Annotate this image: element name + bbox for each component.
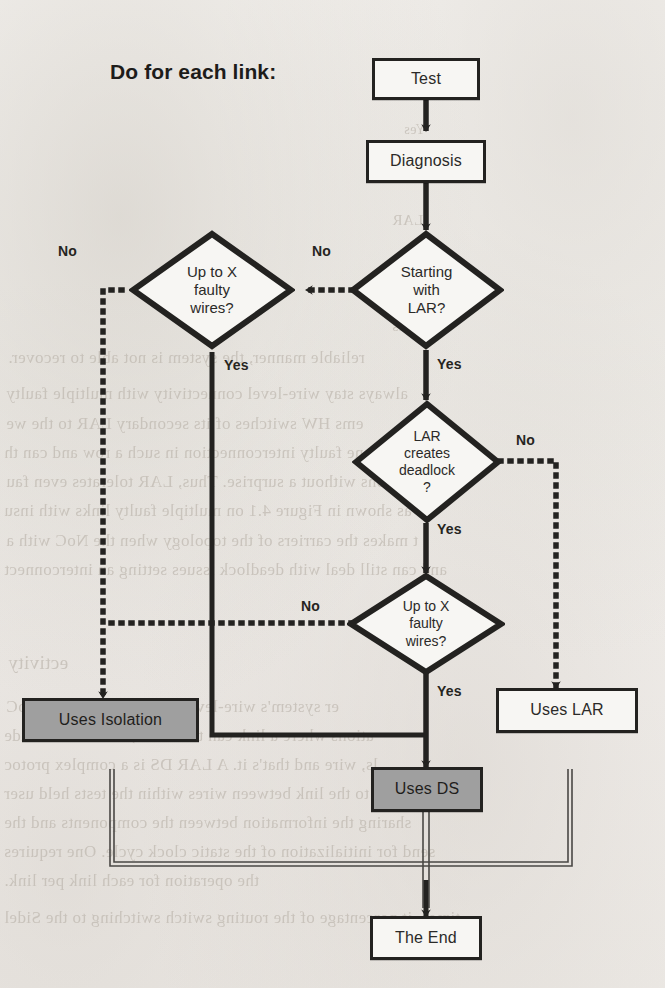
bleed-through-line: send for initialization of the static cl… bbox=[4, 842, 435, 862]
bleed-through-line: reliable manner, the system is not able … bbox=[8, 348, 365, 368]
decision-label: LAR creates deadlock ? bbox=[352, 400, 502, 524]
bleed-through-line: ls, wire and that's it. A LAR DS is a co… bbox=[4, 755, 378, 775]
bleed-through-line: Yes bbox=[404, 122, 426, 138]
edge-label-deadlock-no: No bbox=[516, 432, 535, 448]
node-label: Uses Isolation bbox=[59, 711, 162, 730]
bleed-through-line: and can still deal with deadlock issues … bbox=[4, 560, 447, 580]
edge-merge-rail-inner bbox=[114, 769, 568, 862]
node-uses-ds[interactable]: Uses DS bbox=[371, 767, 483, 812]
node-label: The End bbox=[395, 929, 457, 948]
edge-label-starting-lar-yes: Yes bbox=[437, 356, 462, 372]
node-uses-isolation[interactable]: Uses Isolation bbox=[22, 698, 199, 742]
flowchart-page: reliable manner, the system is not able … bbox=[0, 0, 665, 988]
edge-label-mid-yes: Yes bbox=[437, 683, 462, 699]
edge-label-deadlock-yes: Yes bbox=[437, 521, 462, 537]
decision-label: Starting with LAR? bbox=[349, 230, 504, 350]
connector-layer bbox=[0, 0, 665, 988]
bleed-through-line: reports that one faulty interconnection … bbox=[4, 443, 459, 463]
bleed-through-line: ectivity bbox=[8, 652, 68, 674]
edge-left-diamond-yes-to-uses-ds bbox=[212, 352, 425, 735]
bleed-through-line: t makes the carriers of the topology whe… bbox=[6, 531, 418, 551]
bleed-through-line: the operation for each link per link. bbox=[4, 871, 259, 891]
bleed-through-line: wires bbox=[392, 318, 427, 335]
decision-starting-with-lar[interactable]: Starting with LAR? bbox=[349, 230, 504, 350]
bleed-through-line: oC as shown in Figure 4.1 on multiple fa… bbox=[4, 501, 437, 521]
bleed-through-line: sharing the information between the comp… bbox=[4, 813, 411, 833]
decision-up-to-x-faulty-wires-left[interactable]: Up to X faulty wires? bbox=[129, 230, 295, 350]
bleed-through-line: always stay wire-level connectivity with… bbox=[6, 384, 408, 404]
decision-lar-creates-deadlock[interactable]: LAR creates deadlock ? bbox=[352, 400, 502, 524]
bleed-through-line: re to the link between wires within the … bbox=[4, 784, 388, 804]
edge-merge-rail-outer bbox=[110, 769, 572, 866]
edge-label-left-yes: Yes bbox=[224, 357, 249, 373]
node-the-end[interactable]: The End bbox=[370, 916, 482, 960]
node-diagnosis[interactable]: Diagnosis bbox=[366, 140, 486, 183]
bleed-through-line: LAR bbox=[392, 212, 423, 229]
bleed-through-line: ems HW switches of its secondary LAR to … bbox=[6, 414, 364, 434]
node-label: Uses DS bbox=[395, 780, 460, 799]
decision-up-to-x-faulty-wires-mid[interactable]: Up to X faulty wires? bbox=[347, 573, 505, 675]
decision-label: Up to X faulty wires? bbox=[129, 230, 295, 350]
decision-label: Up to X faulty wires? bbox=[347, 573, 505, 675]
edge-label-mid-no: No bbox=[301, 598, 320, 614]
node-label: Diagnosis bbox=[390, 152, 462, 171]
node-test[interactable]: Test bbox=[372, 58, 480, 100]
edge-left-diamond-no-to-uses-isolation bbox=[103, 290, 122, 698]
node-label: Test bbox=[411, 70, 441, 89]
paper-texture bbox=[0, 0, 665, 988]
edge-label-left-no: No bbox=[58, 243, 77, 259]
edge-deadlock-no-to-uses-lar bbox=[500, 461, 556, 688]
page-title: Do for each link: bbox=[110, 60, 276, 84]
node-uses-lar[interactable]: Uses LAR bbox=[496, 688, 638, 733]
edge-label-starting-lar-no: No bbox=[312, 243, 331, 259]
node-label: Uses LAR bbox=[530, 701, 604, 720]
bleed-through-line: ons without a surprise. Thus, LAR tolera… bbox=[6, 472, 385, 492]
